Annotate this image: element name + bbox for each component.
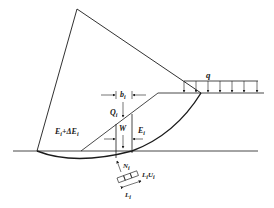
- label-N: Ni: [122, 162, 130, 171]
- label-E-right: Ei: [137, 126, 145, 136]
- pore-pressure-block: [117, 171, 138, 183]
- label-Q: Qi: [110, 108, 118, 118]
- label-LU: LiUi: [141, 171, 155, 180]
- label-b: bi: [120, 90, 126, 100]
- surcharge-arrows: [184, 81, 257, 92]
- slope-face-line: [81, 93, 158, 151]
- label-W: W: [119, 124, 127, 133]
- label-L: Li: [124, 191, 131, 200]
- N-arrow: [117, 161, 121, 172]
- radius-line-right: [77, 9, 201, 93]
- label-q: q: [206, 70, 211, 80]
- L-dim-line: [123, 181, 141, 187]
- label-E-left: Ei+ΔEi: [54, 127, 79, 137]
- slope-diagram: q bi Qi W Ei Ei+ΔEi Ni LiUi Li: [0, 0, 274, 208]
- diagram-svg: q bi Qi W Ei Ei+ΔEi Ni LiUi Li: [0, 0, 274, 208]
